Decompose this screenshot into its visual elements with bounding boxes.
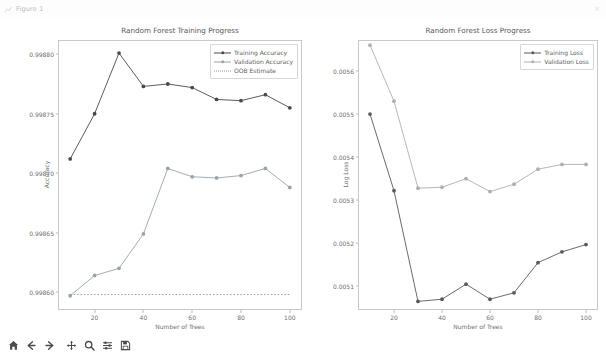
data-point-marker <box>117 266 121 270</box>
data-point-marker <box>264 167 268 171</box>
plot-area-loss <box>358 40 598 310</box>
data-point-marker <box>190 86 194 90</box>
legend-swatch <box>214 66 231 75</box>
y-tick-label: 0.0053 <box>333 197 354 204</box>
data-point-marker <box>239 174 243 178</box>
data-point-marker <box>560 250 564 254</box>
data-point-marker <box>288 106 292 110</box>
data-point-marker <box>440 297 444 301</box>
data-point-marker <box>93 112 97 116</box>
legend-label: Training Loss <box>544 49 583 56</box>
window-title: Figure 1 <box>16 5 44 13</box>
arrow-right-icon <box>44 340 55 351</box>
y-tick-label: 0.0054 <box>333 154 354 161</box>
x-tick-label: 80 <box>237 314 245 321</box>
data-point-marker <box>368 112 372 116</box>
data-point-marker <box>142 232 146 236</box>
data-point-marker <box>464 177 468 181</box>
legend-item: Validation Accuracy <box>214 57 293 66</box>
x-axis-label-loss: Number of Trees <box>358 323 598 330</box>
axes-loss-progress[interactable]: Random Forest Loss Progress Log Loss Num… <box>358 40 598 310</box>
y-tick-label: 0.99875 <box>29 110 54 117</box>
legend-item: OOB Estimate <box>214 66 293 75</box>
plot-area-training <box>58 40 302 310</box>
arrow-left-icon <box>26 340 37 351</box>
back-button[interactable] <box>23 337 40 354</box>
x-tick-mark <box>586 310 587 313</box>
data-point-marker <box>392 189 396 193</box>
data-point-marker <box>512 182 516 186</box>
data-point-marker <box>142 84 146 88</box>
legend-loss: Training LossValidation Loss <box>520 44 594 70</box>
x-tick-mark <box>442 310 443 313</box>
legend-label: Validation Loss <box>544 58 589 65</box>
x-tick-mark <box>241 310 242 313</box>
chart-icon <box>4 5 13 14</box>
data-point-marker <box>488 190 492 194</box>
x-tick-mark <box>394 310 395 313</box>
data-point-marker <box>560 163 564 167</box>
save-icon <box>120 340 131 351</box>
legend-label: OOB Estimate <box>234 67 276 74</box>
x-tick-label: 100 <box>580 314 591 321</box>
x-tick-mark <box>143 310 144 313</box>
x-tick-mark <box>538 310 539 313</box>
data-point-marker <box>166 82 170 86</box>
home-button[interactable] <box>5 337 22 354</box>
legend-swatch <box>524 48 541 57</box>
legend-swatch <box>214 57 231 66</box>
x-tick-mark <box>94 310 95 313</box>
data-point-marker <box>584 243 588 247</box>
y-tick-label: 0.0052 <box>333 240 354 247</box>
close-icon[interactable]: × <box>594 5 600 13</box>
x-tick-label: 40 <box>140 314 148 321</box>
data-point-marker <box>215 98 219 102</box>
data-point-marker <box>215 176 219 180</box>
window-titlebar: Figure 1 × <box>0 0 606 18</box>
x-tick-label: 60 <box>486 314 494 321</box>
save-button[interactable] <box>117 337 134 354</box>
y-tick-label: 0.99880 <box>29 51 54 58</box>
data-point-marker <box>166 167 170 171</box>
data-point-marker <box>416 186 420 190</box>
legend-label: Training Accuracy <box>234 49 287 56</box>
legend-item: Validation Loss <box>524 57 589 66</box>
legend-swatch <box>214 48 231 57</box>
home-icon <box>8 340 19 351</box>
data-point-marker <box>584 163 588 167</box>
data-point-marker <box>488 297 492 301</box>
legend-training: Training AccuracyValidation AccuracyOOB … <box>210 44 298 79</box>
zoom-button[interactable] <box>81 337 98 354</box>
axes-training-progress[interactable]: Random Forest Training Progress Accuracy… <box>58 40 302 310</box>
y-tick-label: 0.0051 <box>333 283 354 290</box>
x-tick-label: 80 <box>534 314 542 321</box>
sliders-icon <box>102 340 113 351</box>
x-tick-label: 20 <box>91 314 99 321</box>
data-point-marker <box>68 157 72 161</box>
y-tick-label: 0.99870 <box>29 170 54 177</box>
data-point-marker <box>392 99 396 103</box>
y-tick-label: 0.0055 <box>333 111 354 118</box>
data-point-marker <box>239 99 243 103</box>
x-tick-label: 20 <box>390 314 398 321</box>
x-tick-mark <box>490 310 491 313</box>
data-point-marker <box>440 185 444 189</box>
y-tick-label: 0.0056 <box>333 68 354 75</box>
figure-canvas: Random Forest Training Progress Accuracy… <box>0 18 606 330</box>
x-tick-mark <box>192 310 193 313</box>
subplots-button[interactable] <box>99 337 116 354</box>
data-point-marker <box>117 51 121 55</box>
y-tick-label: 0.99860 <box>29 289 54 296</box>
data-point-marker <box>288 186 292 190</box>
data-point-marker <box>264 93 268 97</box>
x-tick-label: 40 <box>438 314 446 321</box>
figure-window: Figure 1 × Random Forest Training Progre… <box>0 0 606 361</box>
forward-button[interactable] <box>41 337 58 354</box>
data-point-marker <box>536 261 540 265</box>
y-tick-label: 0.99865 <box>29 229 54 236</box>
chart-title-loss: Random Forest Loss Progress <box>358 26 598 35</box>
move-icon <box>66 340 77 351</box>
series-line <box>370 114 586 301</box>
pan-button[interactable] <box>63 337 80 354</box>
data-point-marker <box>93 274 97 278</box>
